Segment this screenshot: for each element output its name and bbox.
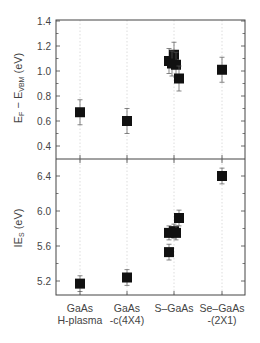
category-gridlines bbox=[80, 20, 222, 295]
square-marker bbox=[174, 74, 184, 84]
y-tick-label: 1.4 bbox=[37, 16, 51, 27]
data-point bbox=[122, 270, 132, 286]
plot-border bbox=[56, 20, 245, 295]
square-marker bbox=[75, 107, 85, 117]
data-point bbox=[217, 57, 227, 82]
square-marker bbox=[217, 65, 227, 75]
y-tick-label: 1.0 bbox=[37, 66, 51, 77]
x-tick-label: S–GaAs bbox=[154, 302, 193, 314]
data-point bbox=[75, 276, 85, 292]
square-marker bbox=[122, 116, 132, 126]
plot-frame bbox=[56, 20, 245, 295]
x-tick-label: -(2X1) bbox=[207, 314, 236, 326]
square-marker bbox=[171, 228, 181, 238]
y-tick-label: 5.2 bbox=[37, 276, 51, 287]
x-tick-label: GaAs bbox=[67, 302, 93, 314]
data-point bbox=[171, 226, 181, 240]
y-axis-ticks: 0.40.60.81.01.21.45.25.66.06.4 bbox=[37, 16, 245, 287]
data-point bbox=[217, 168, 227, 184]
data-point bbox=[164, 244, 174, 260]
data-points bbox=[75, 42, 227, 291]
y-tick-label: 6.4 bbox=[37, 171, 51, 182]
data-point bbox=[174, 210, 184, 226]
chart: 0.40.60.81.01.21.45.25.66.06.4 EF − EVBM… bbox=[0, 0, 260, 343]
square-marker bbox=[217, 171, 227, 181]
data-point bbox=[122, 109, 132, 134]
x-tick-label: H-plasma bbox=[58, 314, 103, 326]
y-tick-label: 1.2 bbox=[37, 41, 51, 52]
y-tick-label: 0.6 bbox=[37, 116, 51, 127]
x-axis-labels: GaAsH-plasmaGaAs-c(4X4)S–GaAsSe–GaAs-(2X… bbox=[58, 302, 245, 326]
square-marker bbox=[122, 273, 132, 283]
data-point bbox=[75, 100, 85, 125]
x-tick-label: GaAs bbox=[114, 302, 140, 314]
x-tick-label: -c(4X4) bbox=[110, 314, 144, 326]
y-tick-label: 5.6 bbox=[37, 241, 51, 252]
square-marker bbox=[164, 247, 174, 257]
y-tick-label: 0.8 bbox=[37, 91, 51, 102]
y-tick-label: 6.0 bbox=[37, 206, 51, 217]
square-marker bbox=[174, 213, 184, 223]
y-tick-label: 0.4 bbox=[37, 141, 51, 152]
x-axis-ticks bbox=[80, 155, 222, 295]
bottom-y-axis-label: IES (eV) bbox=[12, 209, 25, 248]
square-marker bbox=[75, 279, 85, 289]
top-y-axis-label: EF − EVBM (eV) bbox=[12, 53, 25, 124]
square-marker bbox=[171, 60, 181, 70]
x-tick-label: Se–GaAs bbox=[200, 302, 245, 314]
